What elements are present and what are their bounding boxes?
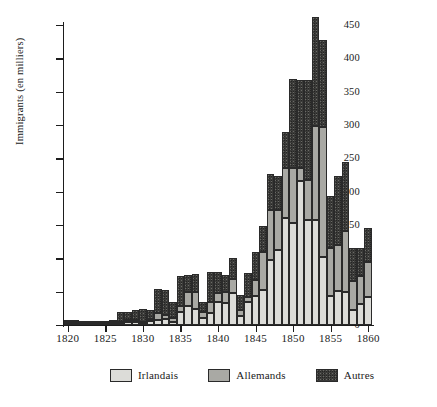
bar-segment-autres-1841 xyxy=(222,275,230,292)
bar-1821 xyxy=(72,25,80,325)
legend-label-autres: Autres xyxy=(344,370,375,381)
bar-segment-allemands-1847 xyxy=(267,210,275,260)
bar-segment-irlandais-1844 xyxy=(244,302,252,325)
bar-segment-irlandais-1833 xyxy=(162,319,170,325)
bar-1843 xyxy=(237,25,245,325)
bar-segment-autres-1839 xyxy=(207,272,215,302)
bar-segment-autres-1852 xyxy=(304,80,312,180)
bar-1841 xyxy=(222,25,230,325)
plot-area: 050100150200250300350400450 182018251830… xyxy=(64,25,372,325)
legend-swatch-autres xyxy=(316,369,338,382)
bar-segment-allemands-1854 xyxy=(319,127,327,257)
bar-segment-irlandais-1845 xyxy=(252,296,260,325)
bar-1820 xyxy=(64,25,72,325)
x-tick-label-1840: 1840 xyxy=(206,333,229,344)
bar-segment-irlandais-1848 xyxy=(274,250,282,325)
bar-segment-autres-1837 xyxy=(192,274,200,291)
bar-1836 xyxy=(184,25,192,325)
chart-figure: Immigrants (en milliers) 050100150200250… xyxy=(0,0,437,407)
bar-segment-autres-1860 xyxy=(364,228,372,262)
bar-1853 xyxy=(312,25,320,325)
x-tick-1830 xyxy=(143,325,144,332)
bar-1850 xyxy=(289,25,297,325)
bar-segment-allemands-1820 xyxy=(64,322,72,324)
legend-item-irlandais: Irlandais xyxy=(110,369,178,382)
bar-1848 xyxy=(274,25,282,325)
bar-segment-autres-1829 xyxy=(132,310,140,320)
bar-segment-autres-1828 xyxy=(124,312,132,321)
x-tick-label-1825: 1825 xyxy=(94,333,117,344)
legend-item-allemands: Allemands xyxy=(208,369,285,382)
bar-segment-allemands-1835 xyxy=(177,306,185,312)
bar-segment-allemands-1844 xyxy=(244,297,252,302)
y-tick-300 xyxy=(56,125,64,126)
x-tick-label-1855: 1855 xyxy=(319,333,342,344)
bar-segment-allemands-1843 xyxy=(237,310,245,315)
bar-segment-allemands-1859 xyxy=(357,276,365,304)
bar-segment-autres-1842 xyxy=(229,258,237,279)
legend-swatch-irlandais xyxy=(110,369,132,382)
bar-segment-irlandais-1843 xyxy=(237,316,245,325)
bar-segment-allemands-1860 xyxy=(364,262,372,297)
legend-label-allemands: Allemands xyxy=(236,370,285,381)
bar-segment-autres-1849 xyxy=(282,132,290,168)
bar-1827 xyxy=(117,25,125,325)
bar-segment-irlandais-1856 xyxy=(334,291,342,325)
y-tick-200 xyxy=(56,192,64,193)
bar-segment-irlandais-1853 xyxy=(312,220,320,325)
bar-1840 xyxy=(214,25,222,325)
y-tick-450 xyxy=(56,25,64,26)
x-tick-1825 xyxy=(105,325,106,332)
bar-segment-autres-1847 xyxy=(267,174,275,209)
bar-segment-allemands-1840 xyxy=(214,293,222,302)
bar-segment-autres-1840 xyxy=(214,272,222,293)
x-tick-label-1835: 1835 xyxy=(169,333,192,344)
bar-1847 xyxy=(267,25,275,325)
bar-segment-irlandais-1846 xyxy=(259,290,267,325)
bar-1837 xyxy=(192,25,200,325)
bar-segment-irlandais-1835 xyxy=(177,312,185,325)
bar-segment-irlandais-1834 xyxy=(169,322,177,325)
bar-segment-autres-1826 xyxy=(109,320,117,322)
bar-1849 xyxy=(282,25,290,325)
bar-segment-allemands-1848 xyxy=(274,210,282,250)
bar-1854 xyxy=(319,25,327,325)
x-tick-label-1820: 1820 xyxy=(56,333,79,344)
x-tick-1835 xyxy=(180,325,181,332)
bar-1856 xyxy=(334,25,342,325)
bar-segment-allemands-1851 xyxy=(297,168,305,181)
y-tick-350 xyxy=(56,92,64,93)
bar-segment-irlandais-1839 xyxy=(207,313,215,325)
bar-1831 xyxy=(147,25,155,325)
bar-segment-autres-1858 xyxy=(349,248,357,281)
y-tick-0 xyxy=(56,325,64,326)
bar-1835 xyxy=(177,25,185,325)
x-tick-1845 xyxy=(256,325,257,332)
bar-segment-allemands-1839 xyxy=(207,302,215,313)
bar-segment-autres-1859 xyxy=(357,248,365,276)
bar-segment-allemands-1830 xyxy=(139,322,147,324)
bar-1842 xyxy=(229,25,237,325)
bar-segment-irlandais-1860 xyxy=(364,297,372,325)
y-tick-50 xyxy=(56,292,64,293)
bar-segment-irlandais-1841 xyxy=(222,303,230,325)
bar-segment-autres-1820 xyxy=(64,320,72,322)
bar-1846 xyxy=(259,25,267,325)
bar-segment-autres-1843 xyxy=(237,295,245,310)
bar-segment-autres-1821 xyxy=(72,320,80,322)
bar-segment-autres-1855 xyxy=(327,196,335,247)
bar-segment-autres-1827 xyxy=(117,312,125,322)
bar-segment-irlandais-1852 xyxy=(304,220,312,325)
bar-segment-irlandais-1842 xyxy=(229,293,237,325)
bar-segment-autres-1832 xyxy=(154,289,162,313)
bar-segment-allemands-1853 xyxy=(312,126,320,220)
bar-segment-allemands-1838 xyxy=(199,312,207,317)
legend-swatch-allemands xyxy=(208,369,230,382)
bar-segment-allemands-1834 xyxy=(169,318,177,321)
bar-segment-irlandais-1840 xyxy=(214,302,222,325)
x-tick-1820 xyxy=(68,325,69,332)
bar-segment-allemands-1850 xyxy=(289,168,297,223)
bar-segment-allemands-1826 xyxy=(109,322,117,324)
bar-1857 xyxy=(342,25,350,325)
bar-segment-allemands-1827 xyxy=(117,322,125,324)
